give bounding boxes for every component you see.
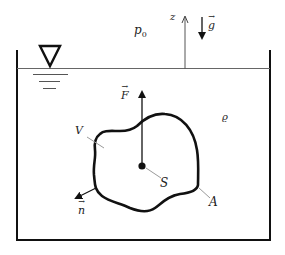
centroid-point (138, 162, 145, 169)
water-level-icon (33, 46, 68, 89)
gravity-symbol: g (208, 20, 215, 31)
normal-vector-label: n (78, 205, 85, 216)
volume-label: V (75, 125, 83, 136)
surface-label: A (209, 196, 218, 208)
ambient-pressure-label: p0 (134, 24, 147, 39)
buoyancy-diagram: p0 z g F ϱ V S A n (0, 0, 285, 255)
centroid-label: S (160, 177, 168, 189)
normal-symbol: n (78, 205, 85, 216)
submerged-body (94, 114, 198, 212)
force-label: F (121, 90, 129, 101)
density-label: ϱ (222, 112, 228, 122)
force-symbol: F (121, 90, 129, 101)
centroid-leader (146, 168, 161, 178)
z-axis-label: z (170, 12, 175, 22)
pressure-symbol: p (134, 23, 142, 37)
pressure-subscript: 0 (142, 30, 147, 39)
gravity-label: g (208, 20, 215, 31)
